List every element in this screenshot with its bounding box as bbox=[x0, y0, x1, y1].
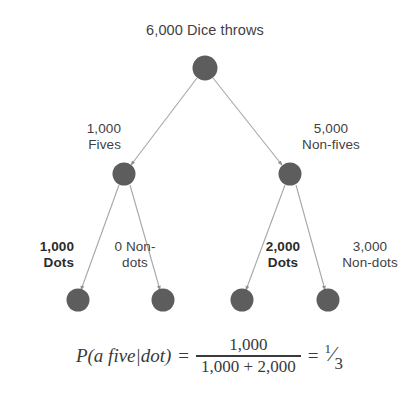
diagram-title: 6,000 Dice throws bbox=[146, 22, 264, 38]
label-fives-text: Fives bbox=[87, 137, 121, 153]
label-nonfives-nondots-count: 3,000 bbox=[342, 239, 398, 255]
probability-tree-diagram: 6,000 Dice throws 1,000 Fives 5,000 Non-… bbox=[0, 0, 419, 396]
label-nonfives-dots-text: Dots bbox=[266, 255, 300, 271]
result-numerator: 1 bbox=[324, 341, 331, 356]
result-denominator: 3 bbox=[335, 354, 344, 373]
conditional-probability-formula: P(a five|dot) = 1,000 1,000 + 2,000 = 1⁄… bbox=[0, 336, 419, 376]
edge-nonfives-to-dots bbox=[246, 185, 285, 290]
label-fives-count: 1,000 bbox=[87, 121, 121, 137]
node-nonfives bbox=[279, 163, 302, 186]
formula-equals-2: = bbox=[308, 345, 319, 367]
edge-root-to-nonfives bbox=[213, 78, 282, 165]
formula-numerator: 1,000 bbox=[223, 336, 273, 355]
label-nonfives: 5,000 Non-fives bbox=[302, 121, 360, 153]
node-fives bbox=[113, 163, 136, 186]
label-fives: 1,000 Fives bbox=[87, 121, 121, 153]
label-fives-nondots: 0 Non- dots bbox=[114, 239, 155, 271]
formula-expression: P(a five|dot) bbox=[76, 345, 171, 367]
label-nonfives-dots-count: 2,000 bbox=[266, 239, 300, 255]
node-fives-dots bbox=[67, 289, 90, 312]
formula-result: 1⁄3 bbox=[324, 341, 343, 371]
label-nonfives-text: Non-fives bbox=[302, 137, 360, 153]
label-nonfives-count: 5,000 bbox=[302, 121, 360, 137]
formula-denominator: 1,000 + 2,000 bbox=[196, 357, 301, 376]
formula-fraction: 1,000 1,000 + 2,000 bbox=[196, 336, 301, 376]
edge-root-to-fives bbox=[131, 78, 197, 165]
label-fives-nondots-count: 0 Non- bbox=[114, 239, 155, 255]
node-fives-nondots bbox=[152, 289, 175, 312]
label-nonfives-nondots: 3,000 Non-dots bbox=[342, 239, 398, 271]
edge-fives-to-nondots bbox=[130, 185, 160, 290]
label-fives-dots-count: 1,000 bbox=[40, 239, 74, 255]
label-fives-dots: 1,000 Dots bbox=[40, 239, 74, 271]
label-fives-nondots-text: dots bbox=[114, 255, 155, 271]
formula-equals: = bbox=[178, 345, 189, 367]
edge-fives-to-dots bbox=[81, 185, 119, 290]
label-fives-dots-text: Dots bbox=[40, 255, 74, 271]
label-nonfives-nondots-text: Non-dots bbox=[342, 255, 398, 271]
node-root bbox=[193, 56, 218, 81]
diagram-title-text: 6,000 Dice throws bbox=[146, 22, 264, 38]
label-nonfives-dots: 2,000 Dots bbox=[266, 239, 300, 271]
node-nonfives-nondots bbox=[317, 289, 340, 312]
edge-nonfives-to-nondots bbox=[296, 185, 325, 290]
node-nonfives-dots bbox=[231, 289, 254, 312]
